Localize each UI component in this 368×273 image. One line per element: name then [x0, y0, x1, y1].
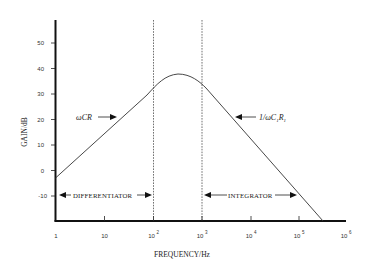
- arrow-right-icon: [290, 192, 297, 198]
- differentiator-label: DIFFERENTIATOR: [73, 192, 133, 199]
- inverse-wc1r1-label: 1/ωC1R1: [259, 113, 286, 123]
- svg-text:10: 10: [148, 233, 155, 239]
- y-tick-label: 20: [37, 117, 44, 123]
- wcr-label: ωCR: [76, 113, 92, 122]
- x-tick-label: 10 6: [341, 230, 352, 239]
- y-tick-label: -10: [38, 193, 47, 199]
- wcr-arrow-icon: [98, 114, 117, 120]
- svg-text:4: 4: [254, 230, 257, 235]
- svg-text:10: 10: [197, 233, 204, 239]
- x-tick-label: 10 5: [294, 230, 305, 239]
- y-tick-label: 50: [37, 40, 44, 46]
- svg-text:10: 10: [246, 233, 253, 239]
- y-tick-label: 40: [37, 66, 44, 72]
- differentiator-range: DIFFERENTIATOR: [59, 192, 152, 199]
- integrator-label: INTEGRATOR: [228, 192, 273, 199]
- gain-curve: [56, 74, 324, 221]
- arrow-left-icon: [204, 192, 211, 198]
- svg-text:10: 10: [294, 233, 301, 239]
- x-axis-label: FREQUENCY/Hz: [154, 250, 211, 259]
- x-tick-label: 10: [101, 233, 108, 239]
- y-tick-label: 0: [41, 168, 45, 174]
- arrow-right-icon: [145, 192, 152, 198]
- y-tick-label: 30: [37, 91, 44, 97]
- x-tick-label: 1: [54, 233, 58, 239]
- x-tick-label: 10 3: [197, 230, 208, 239]
- y-tick-label: 10: [37, 142, 44, 148]
- svg-text:6: 6: [349, 230, 352, 235]
- svg-text:3: 3: [205, 230, 208, 235]
- y-tick-labels: 50 40 30 20 10 0 -10: [37, 40, 47, 199]
- svg-text:10: 10: [341, 233, 348, 239]
- y-ticks: [51, 43, 55, 196]
- arrow-left-icon: [59, 192, 66, 198]
- x-tick-labels: 1 10 10 2 10 3 10 4 10 5 10 6: [54, 230, 352, 239]
- integrator-range: INTEGRATOR: [204, 192, 297, 199]
- x-tick-label: 10 2: [148, 230, 159, 239]
- x-tick-label: 10 4: [246, 230, 257, 239]
- svg-text:2: 2: [157, 230, 160, 235]
- svg-text:5: 5: [302, 230, 305, 235]
- y-axis-label: GAIN/dB: [20, 117, 29, 147]
- inverse-wc1r1-arrow-icon: [235, 114, 256, 120]
- bode-plot: 50 40 30 20 10 0 -10 1 10 10 2 10 3 10 4…: [0, 0, 368, 273]
